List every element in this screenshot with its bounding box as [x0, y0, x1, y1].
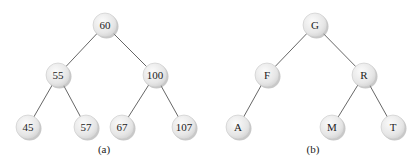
node-label: R [360, 69, 368, 81]
tree-node: 100 [143, 63, 169, 89]
node-label: 45 [23, 121, 35, 133]
node-label: F [264, 69, 270, 81]
tree-node: 67 [110, 115, 136, 141]
tree-b: GFRAMT(b) [226, 13, 407, 156]
node-label: 55 [53, 69, 65, 81]
tree-node: T [381, 115, 407, 141]
tree-node: 57 [74, 115, 100, 141]
node-label: 57 [81, 121, 93, 133]
tree-node: R [352, 63, 378, 89]
node-label: 60 [100, 19, 112, 31]
tree-node: 55 [46, 63, 72, 89]
tree-node: F [255, 63, 281, 89]
tree-node: G [303, 13, 329, 39]
binary-trees-diagram: 6055100455767107(a) GFRAMT(b) [0, 0, 420, 167]
tree-node: A [226, 115, 252, 141]
tree-node: 107 [172, 115, 198, 141]
tree-a: 6055100455767107(a) [16, 13, 198, 156]
figure-caption: (b) [307, 143, 320, 156]
node-label: A [234, 121, 242, 133]
node-label: 100 [147, 69, 164, 81]
node-label: M [327, 121, 337, 133]
node-label: 107 [176, 121, 193, 133]
tree-node: 60 [93, 13, 119, 39]
node-label: 67 [117, 121, 129, 133]
node-label: T [390, 121, 397, 133]
node-label: G [311, 19, 319, 31]
figure-caption: (a) [98, 143, 111, 156]
tree-node: 45 [16, 115, 42, 141]
tree-node: M [320, 115, 346, 141]
